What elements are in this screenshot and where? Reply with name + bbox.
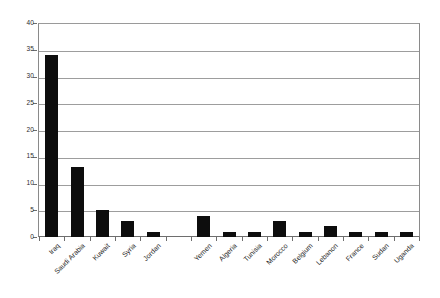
y-tick-label: 5 <box>4 207 34 214</box>
y-tick-label: 10 <box>4 180 34 187</box>
x-tick-mark <box>419 237 420 241</box>
bars-layer <box>39 23 419 237</box>
x-axis-labels: IraqSaudi ArabiaKuwaitSyriaJordanYemenAl… <box>39 242 434 298</box>
y-axis: 0510152025303540 <box>0 23 34 237</box>
x-tick-label: Kuwait <box>91 242 111 262</box>
x-tick-label: Belgium <box>291 242 314 265</box>
x-tick-mark <box>318 237 319 241</box>
x-tick-label: Morocco <box>265 242 289 266</box>
y-tick-label: 35 <box>4 46 34 53</box>
x-tick-mark <box>39 237 40 241</box>
x-tick-mark <box>191 237 192 241</box>
y-tick-label: 20 <box>4 127 34 134</box>
bar <box>273 221 286 237</box>
y-tick-label: 25 <box>4 100 34 107</box>
x-tick-mark <box>394 237 395 241</box>
y-tick-label: 15 <box>4 153 34 160</box>
bar <box>121 221 134 237</box>
x-tick-mark <box>343 237 344 241</box>
x-tick-mark <box>140 237 141 241</box>
bar <box>197 216 210 237</box>
x-tick-mark <box>242 237 243 241</box>
x-tick-label: Yemen <box>192 242 212 262</box>
bar-chart: 0510152025303540 IraqSaudi ArabiaKuwaitS… <box>0 0 440 298</box>
x-tick-label: Uganda <box>393 242 415 264</box>
x-tick-mark <box>166 237 167 241</box>
y-tick-label: 0 <box>4 234 34 241</box>
x-tick-label: Syria <box>120 242 136 258</box>
x-tick-label: Tunisia <box>243 242 264 263</box>
y-tick-label: 40 <box>4 20 34 27</box>
x-tick-label: Lebanon <box>315 242 339 266</box>
bar <box>71 167 84 237</box>
x-tick-mark <box>216 237 217 241</box>
x-tick-mark <box>64 237 65 241</box>
bar <box>96 210 109 237</box>
bar <box>324 226 337 237</box>
bar <box>45 55 58 237</box>
x-tick-mark <box>368 237 369 241</box>
x-tick-label: France <box>344 242 364 262</box>
x-tick-label: Iraq <box>47 242 60 255</box>
x-tick-label: Jordan <box>142 242 162 262</box>
x-tick-mark <box>90 237 91 241</box>
x-tick-mark <box>267 237 268 241</box>
y-tick-label: 30 <box>4 73 34 80</box>
x-tick-label: Sudan <box>371 242 390 261</box>
x-tick-mark <box>115 237 116 241</box>
x-tick-label: Algeria <box>218 242 238 262</box>
x-tick-mark <box>292 237 293 241</box>
